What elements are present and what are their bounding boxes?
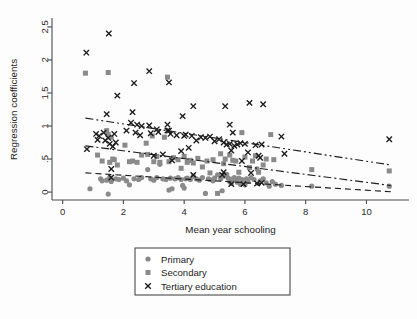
data-point	[116, 177, 121, 182]
data-point	[131, 176, 136, 181]
data-point	[200, 175, 205, 180]
y-axis-title: Regression coefficients	[8, 59, 19, 160]
data-point	[261, 162, 266, 167]
data-point	[186, 145, 191, 150]
data-point	[182, 186, 187, 191]
data-point	[113, 140, 118, 145]
data-point	[130, 159, 135, 164]
data-point	[247, 100, 252, 105]
data-point	[100, 159, 105, 164]
data-point	[115, 93, 120, 98]
data-point	[220, 188, 225, 193]
data-point	[200, 164, 205, 169]
data-point	[387, 184, 392, 189]
data-point	[222, 103, 227, 108]
data-point	[191, 161, 196, 166]
data-point	[179, 177, 184, 182]
data-point	[130, 109, 135, 114]
x-tick-label: 4	[182, 206, 187, 217]
data-point	[151, 159, 156, 164]
data-point	[239, 158, 244, 163]
y-tick-label: 0	[40, 189, 51, 194]
y-tick-label: 1.5	[40, 86, 51, 99]
data-point	[194, 138, 199, 143]
legend-label: Primary	[161, 254, 194, 265]
legend-label: Tertiary education	[161, 281, 237, 292]
data-point	[162, 135, 167, 140]
data-point	[166, 80, 171, 85]
x-tick-label: 6	[242, 206, 247, 217]
legend-label: Secondary	[161, 267, 207, 278]
data-point	[260, 102, 265, 107]
data-point	[84, 50, 89, 55]
data-point	[174, 133, 179, 138]
data-point	[279, 183, 284, 188]
data-point	[84, 146, 89, 151]
x-tick-label: 0	[60, 206, 65, 217]
data-point	[106, 31, 111, 36]
data-point	[309, 184, 314, 189]
data-point	[257, 155, 262, 160]
legend-square-icon	[146, 270, 151, 275]
data-point	[104, 111, 109, 116]
data-point	[87, 186, 92, 191]
data-point	[207, 170, 212, 175]
data-point	[282, 151, 287, 156]
data-point	[157, 160, 162, 165]
data-point	[165, 122, 170, 127]
data-point	[124, 128, 129, 133]
data-series-layer	[83, 31, 392, 197]
data-point	[122, 143, 127, 148]
data-point	[115, 162, 120, 167]
data-point	[147, 123, 152, 128]
data-point	[387, 168, 392, 173]
data-point	[218, 151, 223, 156]
data-point	[179, 166, 184, 171]
data-point	[227, 122, 232, 127]
data-point	[215, 191, 220, 196]
data-point	[309, 167, 314, 172]
data-point	[178, 148, 183, 153]
data-point	[145, 167, 150, 172]
data-point	[259, 142, 264, 147]
data-point	[135, 160, 140, 165]
x-axis-title: Mean year schooling	[185, 224, 275, 235]
data-point	[180, 113, 185, 118]
data-point	[387, 137, 392, 142]
data-point	[279, 134, 284, 139]
data-point	[223, 157, 228, 162]
data-point	[106, 70, 111, 75]
data-point	[165, 75, 170, 80]
data-point	[147, 68, 152, 73]
data-point	[233, 159, 238, 164]
data-point	[256, 170, 261, 175]
y-tick-label: 2	[40, 57, 51, 62]
data-point	[264, 157, 269, 162]
x-tick-label: 10	[361, 206, 372, 217]
data-point	[127, 182, 132, 187]
data-point	[131, 80, 136, 85]
y-tick-label: 2.5	[40, 20, 51, 33]
y-tick-label: .5	[40, 155, 51, 163]
data-point	[106, 191, 111, 196]
data-point	[227, 153, 232, 158]
data-point	[271, 157, 276, 162]
data-point	[248, 170, 253, 175]
y-tick-label: 1	[40, 123, 51, 128]
legend-circle-icon	[145, 256, 150, 261]
data-point	[83, 71, 88, 76]
data-point	[204, 159, 209, 164]
trend-line-tertiary-education	[85, 118, 390, 165]
data-point	[229, 148, 234, 153]
data-point	[112, 131, 117, 136]
chart-legend: PrimarySecondaryTertiary education	[135, 248, 290, 295]
axis-lines	[52, 18, 409, 200]
data-point	[112, 157, 117, 162]
x-tick-label: 2	[121, 206, 126, 217]
x-tick-label: 8	[303, 206, 308, 217]
data-point	[109, 166, 114, 171]
data-point	[95, 153, 100, 158]
data-point	[236, 170, 241, 175]
data-point	[253, 142, 258, 147]
data-point	[245, 150, 250, 155]
